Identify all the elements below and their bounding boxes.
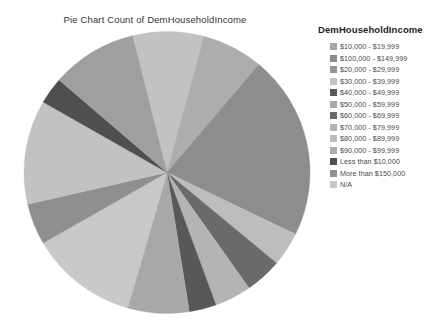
legend-item[interactable]: N/A: [330, 179, 437, 190]
legend-item-label: Less than $10,000: [340, 157, 400, 166]
legend-title: DemHouseholdIncome: [318, 24, 437, 35]
legend-item[interactable]: $60,000 - $69,999: [330, 110, 437, 121]
legend-swatch-icon: [330, 78, 337, 85]
legend-swatch-icon: [330, 170, 337, 177]
legend-item[interactable]: $70,000 - $79,999: [330, 122, 437, 133]
legend-item-label: More than $150,000: [340, 169, 405, 178]
pie-chart-svg: [22, 30, 312, 315]
legend-item[interactable]: $100,000 - $149,999: [330, 53, 437, 64]
legend-swatch-icon: [330, 89, 337, 96]
legend-item-label: N/A: [340, 180, 352, 189]
legend-item[interactable]: More than $150,000: [330, 168, 437, 179]
legend-item[interactable]: $40,000 - $49,999: [330, 87, 437, 98]
pie-chart: [22, 30, 312, 315]
legend-item[interactable]: $80,000 - $89,999: [330, 133, 437, 144]
legend-item[interactable]: Less than $10,000: [330, 156, 437, 167]
legend-item[interactable]: $30,000 - $39,999: [330, 76, 437, 87]
legend-item-label: $30,000 - $39,999: [340, 77, 399, 86]
legend-item[interactable]: $50,000 - $59,999: [330, 99, 437, 110]
legend-swatch-icon: [330, 112, 337, 119]
legend-item-label: $70,000 - $79,999: [340, 123, 399, 132]
legend-item-label: $100,000 - $149,999: [340, 54, 407, 63]
legend-item-label: $20,000 - $29,999: [340, 65, 399, 74]
legend-item-label: $10,000 - $19,999: [340, 42, 399, 51]
legend-swatch-icon: [330, 181, 337, 188]
legend-swatch-icon: [330, 158, 337, 165]
legend-swatch-icon: [330, 66, 337, 73]
legend-swatch-icon: [330, 101, 337, 108]
legend: DemHouseholdIncome $10,000 - $19,999$100…: [318, 24, 437, 191]
legend-item-label: $90,000 - $99,999: [340, 146, 399, 155]
chart-title: Pie Chart Count of DemHouseholdIncome: [0, 14, 310, 25]
legend-swatch-icon: [330, 124, 337, 131]
legend-swatch-icon: [330, 135, 337, 142]
legend-item[interactable]: $90,000 - $99,999: [330, 145, 437, 156]
legend-item-label: $40,000 - $49,999: [340, 88, 399, 97]
legend-item-label: $60,000 - $69,999: [340, 111, 399, 120]
legend-item-label: $50,000 - $59,999: [340, 100, 399, 109]
legend-swatch-icon: [330, 43, 337, 50]
legend-item[interactable]: $20,000 - $29,999: [330, 64, 437, 75]
legend-swatch-icon: [330, 55, 337, 62]
pie-slice-group: [24, 31, 310, 313]
legend-item-label: $80,000 - $89,999: [340, 134, 399, 143]
legend-list: $10,000 - $19,999$100,000 - $149,999$20,…: [318, 41, 437, 190]
legend-swatch-icon: [330, 147, 337, 154]
legend-item[interactable]: $10,000 - $19,999: [330, 41, 437, 52]
